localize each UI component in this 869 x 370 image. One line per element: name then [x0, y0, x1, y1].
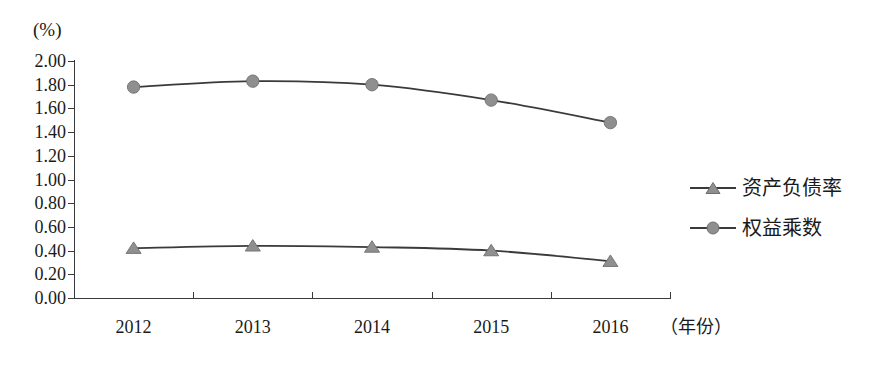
data-point-circle[interactable] [485, 94, 497, 106]
data-point-circle[interactable] [127, 81, 139, 93]
legend-item-0[interactable]: 资产负债率 [690, 168, 865, 208]
triangle-icon [705, 181, 721, 195]
series-0 [126, 240, 618, 267]
line-chart: (%) 2.001.801.601.401.201.000.800.600.40… [0, 0, 869, 370]
legend: 资产负债率 权益乘数 [690, 168, 865, 248]
legend-item-1[interactable]: 权益乘数 [690, 208, 865, 248]
series-1 [127, 75, 616, 129]
data-point-circle[interactable] [604, 116, 616, 128]
legend-swatch-triangle [690, 179, 736, 197]
data-point-circle[interactable] [247, 75, 259, 87]
legend-swatch-circle [690, 219, 736, 237]
data-point-circle[interactable] [366, 79, 378, 91]
legend-label-1: 权益乘数 [742, 218, 822, 238]
circle-icon [705, 220, 721, 236]
legend-label-0: 资产负债率 [742, 178, 842, 198]
